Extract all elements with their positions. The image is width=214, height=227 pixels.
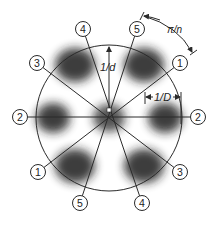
line-label-2: 2	[191, 110, 206, 125]
diffraction-spot	[124, 48, 164, 82]
line-label-1: 1	[31, 165, 46, 180]
label-number: 4	[80, 23, 86, 35]
line-label-4: 4	[76, 22, 91, 37]
line-label-4: 4	[135, 196, 150, 211]
line-label-5: 5	[130, 22, 145, 37]
center-marker	[107, 108, 111, 112]
label-number: 1	[35, 166, 41, 178]
label-number: 1	[177, 57, 183, 69]
diffraction-spot	[148, 103, 182, 133]
diffraction-spot	[36, 103, 70, 133]
angle-label: π/n	[167, 24, 182, 35]
label-number: 2	[17, 111, 23, 123]
line-label-3: 3	[30, 56, 45, 71]
angle-tick-top	[140, 12, 144, 20]
label-number: 5	[134, 23, 140, 35]
label-number: 3	[34, 57, 40, 69]
line-label-5: 5	[73, 196, 88, 211]
line-label-3: 3	[173, 165, 188, 180]
spot-width-label: 1/D	[154, 91, 171, 103]
label-number: 5	[77, 197, 83, 209]
label-number: 4	[139, 197, 145, 209]
diffraction-spot	[124, 149, 164, 183]
angle-arc-start	[144, 16, 160, 20]
diagram-canvas: 1122334455 1/d 1/D π/n	[0, 0, 214, 227]
diffraction-diagram: 1122334455 1/d 1/D π/n	[0, 0, 214, 227]
label-number: 3	[177, 166, 183, 178]
label-number: 2	[195, 111, 201, 123]
line-label-1: 1	[173, 56, 188, 71]
line-label-2: 2	[13, 110, 28, 125]
inner-spacing-label: 1/d	[100, 61, 116, 73]
